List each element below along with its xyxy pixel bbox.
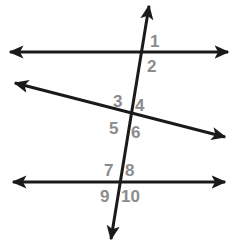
- angle-10-label: 10: [121, 188, 140, 205]
- angle-3-label: 3: [113, 93, 122, 110]
- angle-8-label: 8: [125, 162, 134, 179]
- angle-2-label: 2: [147, 58, 156, 75]
- angle-4-label: 4: [135, 97, 144, 114]
- angle-7-label: 7: [104, 162, 113, 179]
- angle-5-label: 5: [109, 120, 118, 137]
- angle-6-label: 6: [131, 124, 140, 141]
- lines-group: [10, 6, 228, 239]
- diagram-canvas: [0, 0, 237, 245]
- angle-9-label: 9: [100, 188, 109, 205]
- angle-1-label: 1: [150, 33, 159, 50]
- geometry-diagram: 12345678910: [0, 0, 237, 245]
